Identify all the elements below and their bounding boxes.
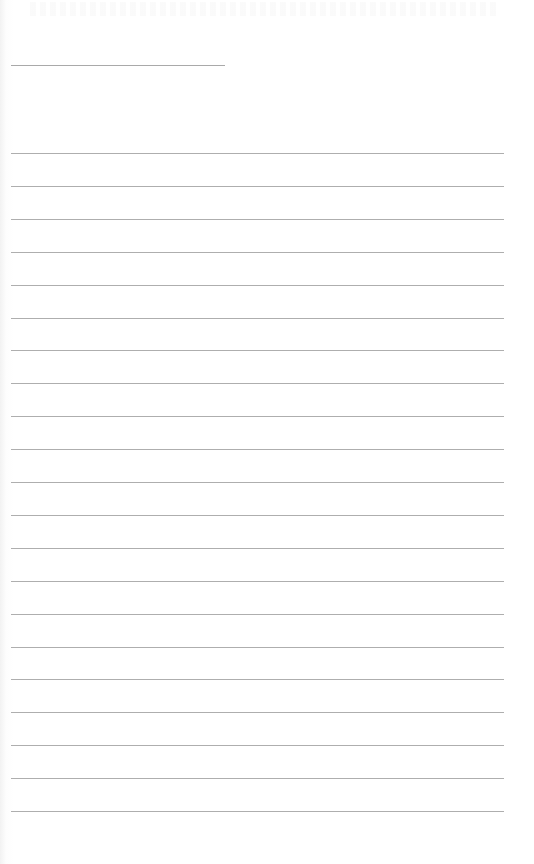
ruled-line	[11, 153, 504, 154]
ruled-line	[11, 811, 504, 812]
ruled-line	[11, 548, 504, 549]
ruled-line	[11, 350, 504, 351]
ruled-line	[11, 416, 504, 417]
ruled-line	[11, 515, 504, 516]
ruled-line	[11, 186, 504, 187]
bleed-through-marks	[30, 2, 500, 16]
ruled-line	[11, 219, 504, 220]
ruled-line	[11, 614, 504, 615]
ruled-line	[11, 745, 504, 746]
ruled-line	[11, 712, 504, 713]
ruled-line	[11, 318, 504, 319]
ruled-line	[11, 482, 504, 483]
lined-paper-page	[0, 0, 534, 864]
ruled-line	[11, 647, 504, 648]
ruled-line	[11, 383, 504, 384]
ruled-line	[11, 285, 504, 286]
ruled-line	[11, 449, 504, 450]
ruled-line	[11, 778, 504, 779]
ruled-line	[11, 581, 504, 582]
ruled-line	[11, 252, 504, 253]
ruled-line	[11, 679, 504, 680]
title-write-line	[11, 65, 225, 66]
